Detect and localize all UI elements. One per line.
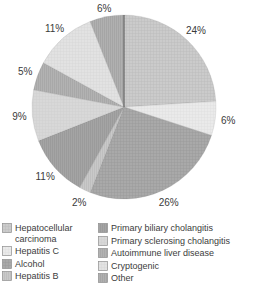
- legend-column-right: Primary biliary cholangitisPrimary scler…: [98, 223, 253, 286]
- legend-label-hepatitis-c: Hepatitis C: [15, 246, 59, 257]
- legend-label-other: Other: [111, 273, 134, 284]
- slice-label-autoimmune-liver-disease: 5%: [18, 66, 33, 77]
- slice-label-hepatitis-c: 6%: [221, 115, 236, 126]
- legend-item-alcohol: Alcohol: [2, 259, 98, 270]
- legend-swatch-cryptogenic: [98, 261, 108, 271]
- legend-label-hepatitis-b: Hepatitis B: [15, 271, 59, 282]
- legend-swatch-hepatitis-c: [2, 246, 12, 256]
- slice-label-hepatitis-b: 2%: [72, 197, 87, 208]
- legend-label-primary-biliary-cholangitis: Primary biliary cholangitis: [111, 223, 213, 234]
- slice-label-other: 6%: [97, 3, 112, 14]
- legend-item-autoimmune-liver-disease: Autoimmune liver disease: [98, 248, 253, 259]
- legend-item-primary-sclerosing-cholangitis: Primary sclerosing cholangitis: [98, 236, 253, 247]
- legend-label-cryptogenic: Cryptogenic: [111, 261, 159, 272]
- legend-label-hepatocellular-carcinoma: Hepatocellular carcinoma: [15, 223, 98, 244]
- legend-swatch-other: [98, 273, 108, 283]
- legend-label-autoimmune-liver-disease: Autoimmune liver disease: [111, 248, 214, 259]
- legend-swatch-primary-sclerosing-cholangitis: [98, 236, 108, 246]
- legend-swatch-primary-biliary-cholangitis: [98, 223, 108, 233]
- pie-chart-figure: 24%6%26%2%11%9%5%11%6% Hepatocellular ca…: [0, 0, 255, 296]
- legend-column-left: Hepatocellular carcinomaHepatitis CAlcoh…: [2, 223, 98, 286]
- legend-swatch-hepatitis-b: [2, 271, 12, 281]
- legend-swatch-hepatocellular-carcinoma: [2, 223, 12, 233]
- slice-label-primary-biliary-cholangitis: 11%: [36, 171, 55, 182]
- legend-item-hepatitis-b: Hepatitis B: [2, 271, 98, 282]
- legend-label-primary-sclerosing-cholangitis: Primary sclerosing cholangitis: [111, 236, 230, 247]
- slice-label-primary-sclerosing-cholangitis: 9%: [12, 111, 27, 122]
- legend-item-hepatitis-c: Hepatitis C: [2, 246, 98, 257]
- legend-item-hepatocellular-carcinoma: Hepatocellular carcinoma: [2, 223, 98, 244]
- legend-item-primary-biliary-cholangitis: Primary biliary cholangitis: [98, 223, 253, 234]
- pie-svg: 24%6%26%2%11%9%5%11%6%: [0, 0, 255, 222]
- slice-label-hepatocellular-carcinoma: 24%: [186, 25, 206, 36]
- legend-swatch-alcohol: [2, 259, 12, 269]
- legend-item-cryptogenic: Cryptogenic: [98, 261, 253, 272]
- chart-legend: Hepatocellular carcinomaHepatitis CAlcoh…: [2, 223, 253, 286]
- legend-swatch-autoimmune-liver-disease: [98, 248, 108, 258]
- legend-item-other: Other: [98, 273, 253, 284]
- legend-label-alcohol: Alcohol: [15, 259, 45, 270]
- slice-label-cryptogenic: 11%: [45, 23, 64, 34]
- slice-label-alcohol: 26%: [159, 197, 179, 208]
